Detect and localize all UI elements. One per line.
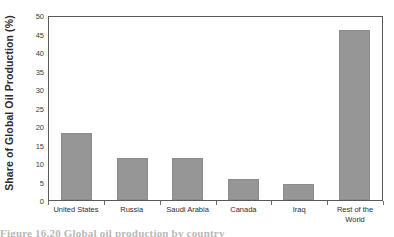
x-axis-category-label: United States bbox=[48, 205, 104, 224]
bar bbox=[283, 184, 314, 200]
x-axis-category-label: Canada bbox=[215, 205, 271, 224]
bar bbox=[172, 158, 203, 200]
figure-caption-text: Figure 16.20 Global oil production by co… bbox=[0, 229, 394, 237]
y-axis-tick-label: 20 bbox=[20, 123, 44, 132]
y-axis-tick-label: 30 bbox=[20, 86, 44, 95]
y-axis-tick-labels: 05101520253035404550 bbox=[20, 16, 44, 201]
bar bbox=[61, 133, 92, 200]
y-axis-tick-label: 5 bbox=[20, 178, 44, 187]
plot-area bbox=[48, 16, 383, 201]
bar-series bbox=[49, 17, 382, 200]
bar-slot bbox=[160, 17, 216, 200]
figure-caption: Figure 16.20 Global oil production by co… bbox=[0, 229, 394, 237]
y-axis-tick-label: 45 bbox=[20, 30, 44, 39]
bar-slot bbox=[216, 17, 272, 200]
x-axis-tick-mark bbox=[383, 201, 384, 205]
x-axis-category-label: Iraq bbox=[271, 205, 327, 224]
y-axis-tick-label: 0 bbox=[20, 197, 44, 206]
bar bbox=[339, 30, 370, 200]
y-axis-tick-label: 35 bbox=[20, 67, 44, 76]
y-axis-tick-label: 15 bbox=[20, 141, 44, 150]
x-axis-category-label: Russia bbox=[104, 205, 160, 224]
bar bbox=[228, 179, 259, 200]
chart-figure: Share of Global Oil Production (%) 05101… bbox=[0, 0, 394, 237]
y-axis-tick-label: 40 bbox=[20, 49, 44, 58]
y-axis-title: Share of Global Oil Production (%) bbox=[0, 0, 18, 205]
x-axis-category-label: Rest of the World bbox=[327, 205, 383, 224]
y-axis-tick-label: 25 bbox=[20, 104, 44, 113]
bar bbox=[117, 158, 148, 200]
y-axis-tick-label: 50 bbox=[20, 12, 44, 21]
x-axis-category-label: Saudi Arabia bbox=[160, 205, 216, 224]
bar-slot bbox=[271, 17, 327, 200]
bar-slot bbox=[327, 17, 383, 200]
y-axis-tick-label: 10 bbox=[20, 160, 44, 169]
y-axis-title-label: Share of Global Oil Production (%) bbox=[3, 15, 15, 191]
bar-slot bbox=[49, 17, 105, 200]
bar-slot bbox=[105, 17, 161, 200]
x-axis-category-labels: United StatesRussiaSaudi ArabiaCanadaIra… bbox=[48, 205, 383, 224]
